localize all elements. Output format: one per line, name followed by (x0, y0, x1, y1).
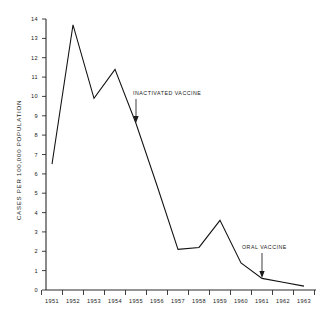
x-tick-label: 1958 (192, 298, 206, 304)
y-tick-label: 8 (35, 132, 38, 138)
annotation-label: ORAL VACCINE (242, 244, 287, 250)
y-tick-label: 2 (35, 248, 38, 254)
x-tick-label: 1957 (171, 298, 185, 304)
y-axis-labels: 0 1 2 3 4 5 6 7 8 9 10 11 12 13 14 (31, 16, 38, 293)
x-axis-ticks (42, 290, 315, 295)
annotation-label: INACTIVATED VACCINE (133, 90, 201, 96)
annotation-inactivated-vaccine: INACTIVATED VACCINE (133, 90, 201, 123)
y-tick-label: 7 (35, 152, 38, 158)
y-tick-label: 12 (31, 55, 38, 61)
y-tick-label: 10 (31, 93, 38, 99)
x-tick-label: 1956 (150, 298, 164, 304)
x-tick-label: 1955 (129, 298, 143, 304)
y-tick-label: 11 (31, 74, 38, 80)
x-tick-label: 1954 (108, 298, 122, 304)
chart-canvas: CASES PER 100,000 POPULATION 0 1 2 (0, 0, 327, 319)
y-tick-label: 6 (35, 171, 38, 177)
x-axis-labels: 1951 1952 1953 1954 1955 1956 1957 1958 … (45, 298, 311, 304)
y-tick-label: 9 (35, 113, 38, 119)
x-tick-label: 1962 (276, 298, 290, 304)
x-tick-label: 1963 (297, 298, 311, 304)
y-tick-label: 5 (35, 190, 38, 196)
y-tick-label: 13 (31, 35, 38, 41)
x-tick-label: 1960 (234, 298, 248, 304)
polio-incidence-chart: CASES PER 100,000 POPULATION 0 1 2 (0, 0, 327, 319)
annotation-oral-vaccine: ORAL VACCINE (242, 244, 287, 278)
y-tick-label: 0 (35, 287, 38, 293)
y-axis-ticks (42, 19, 46, 290)
x-tick-label: 1952 (66, 298, 80, 304)
x-tick-label: 1953 (87, 298, 101, 304)
y-tick-label: 4 (35, 210, 38, 216)
x-tick-label: 1959 (213, 298, 227, 304)
y-tick-label: 1 (35, 268, 38, 274)
y-axis-title: CASES PER 100,000 POPULATION (15, 100, 22, 220)
y-tick-label: 14 (31, 16, 38, 22)
y-tick-label: 3 (35, 229, 38, 235)
x-tick-label: 1951 (45, 298, 59, 304)
x-tick-label: 1961 (255, 298, 269, 304)
